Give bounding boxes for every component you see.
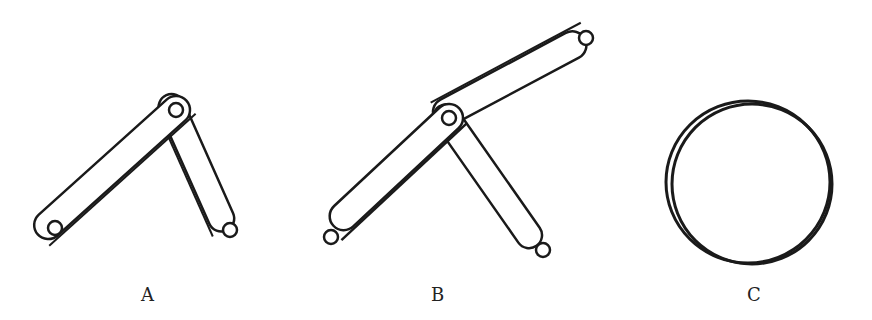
panel-a-figure xyxy=(28,90,238,246)
panel-label-c: C xyxy=(747,284,761,305)
panel-label-a: A xyxy=(141,284,154,305)
panel-b-figure xyxy=(321,23,595,257)
panel-label-b: B xyxy=(431,284,444,305)
panel-c-figure xyxy=(666,101,832,264)
linkage-diagram xyxy=(0,0,872,320)
